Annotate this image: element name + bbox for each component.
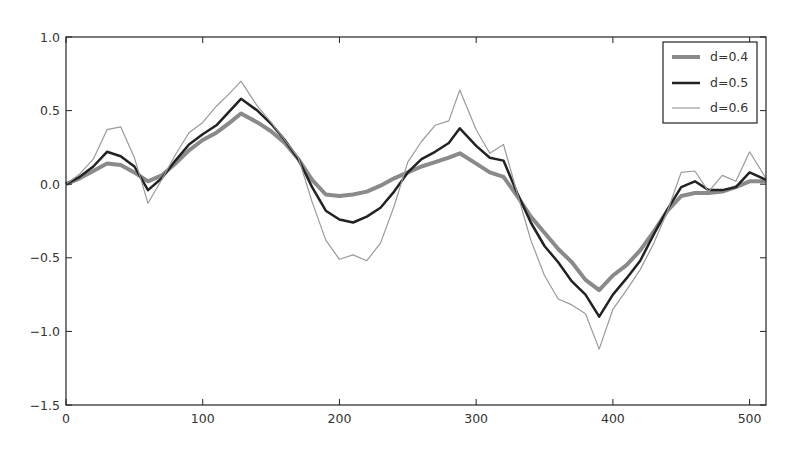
legend-label-d04: d=0.4 [710,49,748,64]
series-line-d05 [66,99,766,317]
x-tick-label: 400 [601,411,625,426]
legend: d=0.4 d=0.5 d=0.6 [663,42,757,123]
x-tick-label: 300 [464,411,488,426]
plot-lines [66,81,766,349]
y-tick-label: −1.0 [30,324,60,339]
series-line-d06 [66,81,766,349]
y-tick-label: 1.0 [40,30,60,45]
y-tick-label: 0.0 [40,177,60,192]
y-tick-label: 0.5 [40,103,60,118]
y-axis: 1.00.50.0−0.5−1.0−1.5 [30,30,766,413]
legend-label-d05: d=0.5 [710,75,748,90]
line-chart: 0100200300400500 1.00.50.0−0.5−1.0−1.5 d… [0,0,791,451]
x-tick-label: 200 [328,411,352,426]
y-tick-label: −0.5 [30,250,60,265]
x-tick-label: 0 [62,411,70,426]
series-line-d04 [66,114,766,291]
x-tick-label: 500 [738,411,762,426]
legend-label-d06: d=0.6 [710,100,748,115]
x-tick-label: 100 [191,411,215,426]
y-tick-label: −1.5 [30,398,60,413]
